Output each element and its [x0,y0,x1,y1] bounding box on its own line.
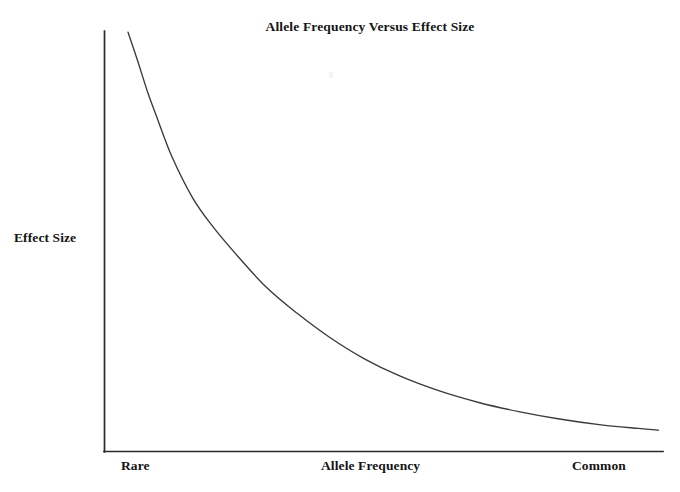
chart-figure: Allele Frequency Versus Effect Size Effe… [0,0,680,492]
plot-area [0,0,680,492]
data-curve-effect-size [128,32,658,430]
